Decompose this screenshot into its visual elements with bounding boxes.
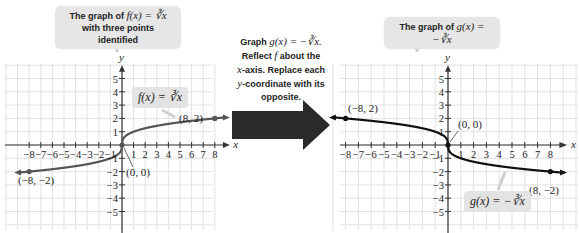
data-point [343,116,348,121]
note-text: Graph [240,37,267,47]
svg-text:(−8, 2): (−8, 2) [348,102,378,115]
note-math: f [274,49,277,61]
svg-text:4: 4 [497,149,503,160]
y-axis-arrow-icon [445,65,451,72]
svg-text:−4: −4 [70,149,82,160]
svg-text:−4: −4 [391,149,403,160]
svg-text:(0, 0): (0, 0) [458,118,482,131]
svg-text:7: 7 [535,149,540,160]
svg-text:(−8, −2): (−8, −2) [18,174,55,187]
svg-text:(8, −2): (8, −2) [529,184,559,197]
svg-text:2: 2 [471,149,476,160]
svg-text:−2: −2 [107,167,118,178]
svg-text:−4: −4 [433,193,445,204]
svg-text:7: 7 [201,149,206,160]
transform-arrow-icon [232,100,330,150]
note-math: g(x) = −∛x. [269,35,322,47]
svg-text:−1: −1 [433,153,444,164]
svg-text:−2: −2 [93,149,104,160]
svg-text:3: 3 [484,149,489,160]
note-text: -coordinate with its [242,79,325,89]
right-graph-callout: The graph of g(x) = −∛x [384,17,500,49]
svg-text:8: 8 [548,149,553,160]
y-axis-arrow-icon [119,65,125,72]
svg-text:−5: −5 [58,149,69,160]
svg-text:3: 3 [439,100,444,111]
svg-text:1: 1 [113,127,118,138]
svg-text:4: 4 [439,87,445,98]
curve-arrow-right-icon [223,114,230,120]
svg-text:2: 2 [143,149,148,160]
svg-text:6: 6 [522,149,527,160]
callout-text: The graph of [69,11,124,21]
svg-text:−2: −2 [417,149,428,160]
note-text: opposite. [222,91,340,104]
svg-text:y: y [118,51,124,63]
svg-text:−2: −2 [433,167,444,178]
note-text: Reflect [242,51,272,61]
svg-text:1: 1 [439,127,444,138]
svg-text:−5: −5 [378,149,389,160]
svg-text:−3: −3 [82,149,93,160]
svg-text:−7: −7 [35,149,46,160]
svg-text:5: 5 [177,149,182,160]
svg-text:6: 6 [189,149,194,160]
svg-text:−3: −3 [404,149,415,160]
svg-text:2: 2 [439,113,444,124]
callout-text: The graph of [400,22,455,32]
callout-text-2: with three points identified [63,22,173,46]
svg-text:3: 3 [113,100,118,111]
svg-text:−7: −7 [353,149,364,160]
svg-text:−6: −6 [47,149,58,160]
svg-text:5: 5 [439,74,444,85]
svg-text:y: y [444,51,450,63]
svg-text:(0, 0): (0, 0) [126,166,150,179]
svg-text:2: 2 [113,113,118,124]
svg-text:1: 1 [131,149,136,160]
svg-text:5: 5 [509,149,514,160]
svg-text:4: 4 [113,87,119,98]
svg-text:−3: −3 [433,180,444,191]
data-point [119,142,124,147]
data-point [212,116,217,121]
note-text: -axis. Replace each [242,65,325,75]
svg-text:−5: −5 [107,207,118,218]
function-label-f: f(x) = ∛x [132,87,188,108]
svg-text:3: 3 [154,149,159,160]
note-text: about the [280,51,321,61]
data-point [445,142,450,147]
left-graph-callout: The graph of f(x) = ∛x with three points… [55,6,181,49]
svg-text:x: x [232,138,238,150]
transform-note: Graph g(x) = −∛x. Reflect f about the x-… [222,35,340,104]
svg-text:−8: −8 [24,149,35,160]
svg-text:5: 5 [113,74,118,85]
svg-text:−6: −6 [366,149,377,160]
svg-text:−8: −8 [340,149,351,160]
svg-text:x: x [570,138,576,150]
svg-text:(8, 2): (8, 2) [179,112,203,125]
callout-math: f(x) = ∛x [126,9,166,21]
svg-text:−1: −1 [107,153,118,164]
svg-text:1: 1 [458,149,463,160]
svg-text:−5: −5 [433,207,444,218]
svg-text:8: 8 [212,149,217,160]
data-point [548,169,553,174]
svg-text:−3: −3 [107,180,118,191]
x-axis-arrow-icon [223,142,230,148]
svg-text:4: 4 [166,149,172,160]
function-label-g: g(x) = −∛x [464,191,531,212]
svg-text:−4: −4 [107,193,119,204]
